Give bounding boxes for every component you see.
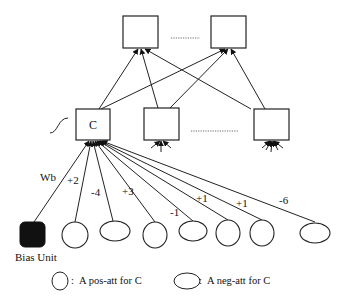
top-node-2	[211, 16, 246, 48]
legend-neg-icon	[174, 273, 200, 289]
pos-att-node	[216, 220, 240, 246]
neg-att-node	[300, 223, 330, 243]
node-c-label: C	[89, 119, 97, 131]
sigmoid-icon	[50, 118, 68, 133]
weight-label: -1	[170, 207, 179, 218]
bias-unit-label: Bias Unit	[15, 252, 57, 263]
neg-att-node	[100, 221, 130, 241]
top-node-1	[123, 16, 158, 48]
legend-pos-separator: :	[71, 276, 74, 287]
legend-neg-text: A neg-att for C	[207, 276, 270, 287]
legend-pos-text: A pos-att for C	[79, 276, 142, 287]
pos-att-node	[143, 222, 167, 248]
weight-label: -4	[91, 187, 100, 198]
pos-att-node	[62, 222, 88, 248]
weight-bias-label: Wb	[40, 172, 56, 183]
weight-label: -6	[279, 195, 288, 206]
hidden-node-2	[144, 108, 179, 140]
hidden-to-top-edges	[99, 49, 265, 109]
hidden-input-stubs	[151, 141, 283, 152]
hidden-node-3	[254, 109, 289, 140]
pos-att-node	[250, 220, 274, 246]
weight-label: +3	[122, 186, 134, 197]
weight-label: +1	[196, 193, 208, 204]
bias-unit-node	[20, 222, 45, 247]
legend-pos-icon	[52, 272, 68, 290]
weight-label: +1	[236, 198, 248, 209]
neg-att-node	[179, 221, 207, 241]
legend-neg-separator: :	[199, 276, 202, 287]
weight-label: +2	[67, 175, 79, 186]
